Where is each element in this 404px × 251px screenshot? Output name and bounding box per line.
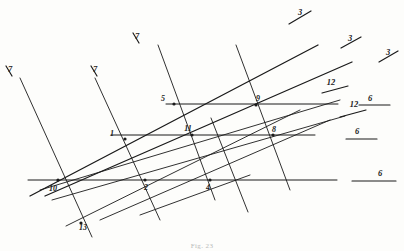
marker-label: 3 [347,33,353,43]
point-dot [56,178,59,181]
legend-marker-12-7: 12 [340,99,366,117]
figure-caption: Fig. 23 [0,242,404,250]
diagram-line-rising-3 [40,100,340,190]
labeled-point-13: 13 [79,221,87,232]
configuration-diagram: 7773331212666 124589101113 [0,0,404,251]
legend-marker-7-1: 7 [91,64,98,76]
marker-label: 6 [368,93,373,103]
point-label: 8 [272,125,276,134]
point-label: 1 [110,129,114,138]
point-dot [254,103,257,106]
marker-label: 7 [135,31,140,41]
marker-label: 3 [385,47,391,57]
marker-label: 12 [350,99,359,109]
point-label: 5 [161,94,165,103]
marker-tick-tick-slash [322,86,348,93]
marker-label: 3 [297,7,303,17]
marker-label: 7 [93,64,98,74]
legend-marker-6-9: 6 [346,126,377,139]
points-layer: 124589101113 [49,94,276,232]
diagram-line-steep-3 [158,45,215,200]
legend-marker-6-8: 6 [359,93,390,105]
point-dot [190,133,193,136]
legend-marker-7-2: 7 [133,31,140,43]
diagram-line-steep-2 [95,78,160,220]
marker-tick-tick-slash [340,110,366,117]
legend-marker-3-3: 3 [289,7,311,24]
legend-marker-6-10: 6 [352,168,396,181]
legend-marker-7-0: 7 [6,64,13,76]
marker-label: 6 [378,168,383,178]
point-label: 4 [205,183,210,192]
legend-marker-3-5: 3 [379,47,398,62]
diagram-line-rising-6 [66,110,300,226]
point-dot [123,137,126,140]
diagram-line-rising-2 [45,62,352,196]
point-label: 2 [143,183,148,192]
diagram-line-steep-5 [211,118,248,212]
legend-marker-12-6: 12 [322,77,348,93]
labeled-point-9: 9 [254,94,260,107]
point-dot [208,178,211,181]
marker-label: 6 [355,126,360,136]
diagram-line-rising-1 [30,45,318,196]
lines-layer [20,45,352,237]
markers-layer: 7773331212666 [6,7,398,181]
point-label: 13 [79,223,87,232]
point-dot [143,178,146,181]
point-label: 11 [184,124,192,133]
marker-label: 7 [8,64,13,74]
point-dot [172,102,175,105]
legend-marker-3-4: 3 [341,33,361,48]
marker-label: 12 [327,77,336,87]
diagram-line-steep-1 [20,78,92,237]
point-label: 10 [49,184,57,193]
point-label: 9 [256,94,260,103]
figure-root: 7773331212666 124589101113 Fig. 23 [0,0,404,251]
